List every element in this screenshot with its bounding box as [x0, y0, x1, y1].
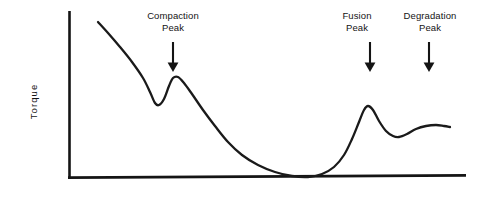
compaction-peak-label-line1: Compaction [147, 10, 199, 21]
y-axis-label: Torque [28, 67, 39, 137]
degradation-peak-label-line2: Peak [390, 22, 470, 34]
degradation-peak-label-line1: Degradation [404, 10, 457, 21]
fusion-peak-label-line2: Peak [330, 22, 384, 34]
fusion-peak-label: Fusion Peak [330, 10, 384, 34]
compaction-peak-label-line2: Peak [128, 22, 218, 34]
compaction-peak-label: Compaction Peak [128, 10, 218, 34]
degradation-peak-label: Degradation Peak [390, 10, 470, 34]
fusion-peak-label-line1: Fusion [342, 10, 371, 21]
